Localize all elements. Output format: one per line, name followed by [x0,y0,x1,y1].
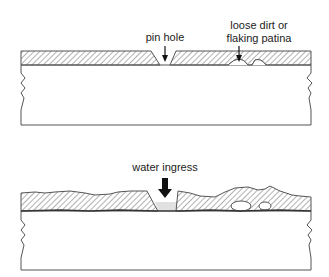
bottom-substrate [21,211,312,270]
loose-dirt-label-line1: loose dirt or [230,19,288,31]
corrosion-void-2 [259,202,271,210]
top-panel: pin hole loose dirt or flaking patina [21,19,312,125]
loose-dirt-label-line2: flaking patina [227,32,293,44]
water-in-gap [155,202,178,211]
water-ingress-label: water ingress [131,161,198,173]
water-ingress-arrow-icon [158,178,172,198]
bottom-patina-layer-left [21,191,158,211]
top-substrate [21,65,312,125]
corrosion-void-1 [231,201,251,211]
pin-hole-label: pin hole [146,31,185,43]
pin-hole-arrow-icon [162,46,168,62]
top-patina-layer-left [21,51,160,65]
corrosion-diagram: pin hole loose dirt or flaking patina wa… [0,0,329,277]
bottom-panel: water ingress [21,161,312,270]
